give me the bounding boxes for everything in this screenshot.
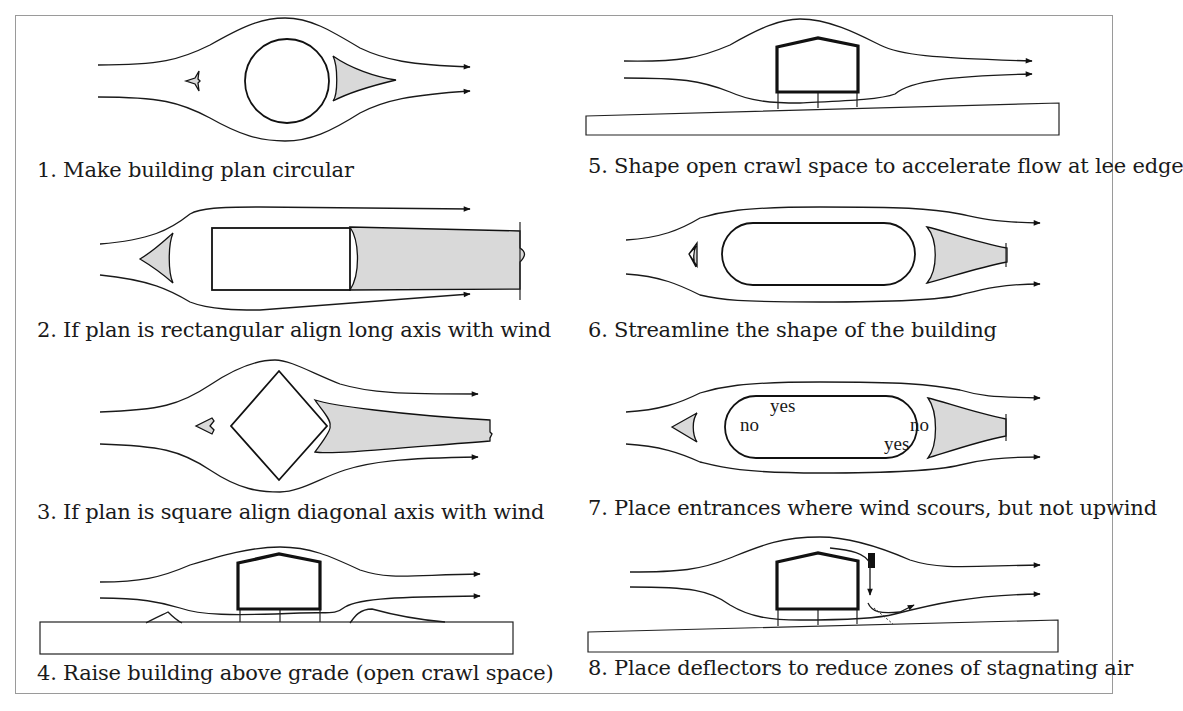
sloped-ground-plane (588, 620, 1058, 652)
caption-panel-7: 7. Place entrances where wind scours, bu… (588, 496, 1157, 520)
house-building-icon (238, 554, 320, 609)
wake-zone-icon (315, 400, 492, 453)
panel-3-square-plan-diagonal (100, 360, 492, 492)
caption-panel-3: 3. If plan is square align diagonal axis… (37, 500, 544, 524)
caption-panel-4: 4. Raise building above grade (open craw… (37, 661, 554, 685)
caption-panel-2: 2. If plan is rectangular align long axi… (37, 318, 551, 342)
panel-1-circular-plan (98, 18, 470, 141)
wake-zone-icon (927, 227, 1007, 283)
upwind-eddy-icon (672, 413, 697, 442)
upwind-eddy-icon (196, 418, 214, 434)
wake-zone-icon (333, 56, 396, 101)
panel-4-raised-building (40, 547, 513, 654)
upwind-eddy-icon (186, 71, 200, 91)
ground-plane (40, 622, 513, 654)
caption-panel-6: 6. Streamline the shape of the building (588, 318, 997, 342)
panel-7-entrances (626, 382, 1040, 473)
panel-6-streamlined (626, 207, 1040, 302)
upwind-eddy-icon (140, 233, 173, 283)
entrance-label-yes-top: yes (770, 396, 795, 415)
caption-panel-1: 1. Make building plan circular (37, 158, 354, 182)
deflector-icon (868, 553, 875, 568)
diamond-building-icon (231, 371, 327, 480)
caption-panel-8: 8. Place deflectors to reduce zones of s… (588, 656, 1133, 680)
caption-panel-5: 5. Shape open crawl space to accelerate … (588, 154, 1183, 178)
wake-zone-icon (350, 227, 525, 290)
house-building-icon (777, 553, 858, 609)
wake-zone-icon (928, 398, 1006, 458)
stadium-building-icon (722, 223, 915, 285)
sloped-ground-plane (586, 103, 1059, 135)
upwind-eddy-icon (689, 243, 697, 267)
panel-2-rectangular-plan (100, 207, 525, 310)
entrance-label-yes-bottom: yes (884, 434, 909, 453)
entrance-label-no-left: no (740, 415, 759, 434)
dashed-flow-line (874, 608, 893, 624)
panel-8-deflector (588, 537, 1058, 652)
panel-5-shaped-crawl-space (586, 19, 1059, 135)
rectangle-building-icon (212, 228, 350, 290)
house-building-icon (777, 38, 858, 92)
entrance-label-no-right: no (910, 415, 929, 434)
circle-building-icon (245, 39, 329, 123)
